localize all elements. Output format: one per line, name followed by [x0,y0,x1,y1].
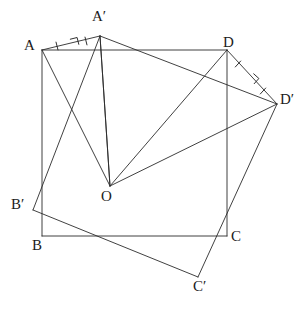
congruence-tick-Ap-half [85,37,87,45]
radius-OA [42,50,110,186]
geometry-figure: A A′ B B′ C C′ D D′ O [0,0,301,313]
vertex-label-c: C [231,229,241,244]
vertex-label-a: A [24,38,35,53]
radius-OD [110,50,227,186]
vertex-label-b: B [32,238,42,253]
rotated-side-DpAp [100,36,277,104]
rotated-side-CpDp [198,104,277,277]
radius-ODp [110,104,277,186]
vertex-label-a-prime: A′ [92,9,106,24]
chord-D-Dp [227,50,277,104]
vertex-label-b-prime: B′ [11,197,24,212]
rotated-side-ApBp [33,36,100,210]
diagonal-Ap-O [100,36,110,186]
vertex-label-d: D [223,35,234,50]
vertex-label-o-center: O [101,189,112,204]
vertex-label-d-prime: D′ [280,92,294,107]
figure-canvas [0,0,301,313]
chord-A-Ap [42,36,100,50]
rotated-side-BpCp [33,210,198,277]
vertex-label-c-prime: C′ [193,279,206,294]
